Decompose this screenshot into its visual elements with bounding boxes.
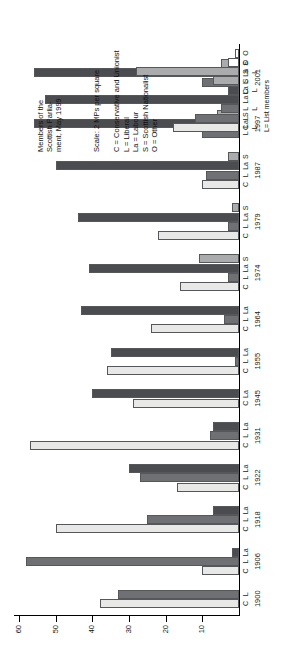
msp-bar-S-5 [213, 77, 239, 86]
y-tick [92, 616, 93, 622]
y-tick-label: 50 [52, 625, 60, 652]
bar-1979-La [78, 213, 239, 222]
msp-bar-La-4 [228, 86, 239, 95]
year-label-1964: 1964 [253, 299, 262, 339]
bar-1955-La [111, 348, 239, 357]
party-label: C [242, 399, 298, 408]
bar-1918-C [56, 525, 239, 534]
party-label: La [242, 264, 298, 273]
year-label-1918: 1918 [253, 500, 262, 540]
bar-1987-L [206, 171, 239, 180]
bar-1922-L [140, 473, 239, 482]
msp-list-marker: L [251, 123, 258, 132]
party-label: C [242, 324, 298, 333]
bar-1955-C [107, 366, 239, 375]
y-tick [166, 616, 167, 622]
y-tick-label: 40 [88, 625, 96, 652]
party-label: C [242, 366, 298, 375]
party-label: La [242, 506, 298, 515]
party-label: L [242, 473, 298, 482]
y-tick-label: 10 [198, 625, 206, 652]
party-label: S [242, 152, 298, 161]
y-tick-label: 20 [162, 625, 170, 652]
msp-party-label: L [242, 114, 249, 123]
party-label: C [242, 599, 298, 608]
party-label: La [242, 213, 298, 222]
bar-1931-C [30, 441, 239, 450]
msp-party-label: L [242, 104, 249, 113]
msp-party-label: S [242, 67, 249, 76]
year-label-1922: 1922 [253, 458, 262, 498]
bar-1964-L [224, 315, 239, 324]
party-label: C [242, 483, 298, 492]
msp-list-marker: L [251, 67, 258, 76]
party-label: C [242, 231, 298, 240]
msp-party-label: S [242, 77, 249, 86]
rotated-figure-wrapper: 102030405060 CL1900CLLa1906CLLa1918CLLa1… [0, 0, 298, 652]
bar-1964-La [81, 306, 239, 315]
msp-party-label: La [242, 95, 249, 104]
party-label: C [242, 282, 298, 291]
msp-list-marker: L [251, 104, 258, 113]
year-label-1955: 1955 [253, 341, 262, 381]
x-axis-baseline [239, 44, 240, 616]
year-label-1906: 1906 [253, 542, 262, 582]
party-label: L [242, 515, 298, 524]
year-label-1987: 1987 [253, 146, 262, 195]
year-label-1945: 1945 [253, 383, 262, 414]
bar-1974-L [228, 273, 239, 282]
scale-note: Scale: 2 MPs per square [92, 70, 101, 152]
y-axis-line [14, 615, 240, 616]
msp-list-marker: L [251, 86, 258, 95]
bar-1974-C [180, 282, 239, 291]
party-label: La [242, 390, 298, 399]
msp-bar-L-2 [221, 104, 239, 113]
msp-bar-O-7 [228, 58, 239, 67]
party-label: S [242, 255, 298, 264]
bar-1906-L [26, 557, 239, 566]
party-label: L [242, 222, 298, 231]
bar-1979-S [232, 203, 239, 212]
bar-1945-C [133, 399, 239, 408]
year-label-1931: 1931 [253, 416, 262, 456]
bar-1964-C [151, 324, 239, 333]
y-tick [19, 616, 20, 622]
party-label: La [242, 548, 298, 557]
party-label: L [242, 171, 298, 180]
bar-1931-La [213, 422, 239, 431]
msp-party-label: C [242, 123, 249, 132]
party-label: C [242, 566, 298, 575]
msp-bar-O-8 [235, 49, 239, 58]
party-label: L [242, 315, 298, 324]
bar-1900-L [118, 590, 239, 599]
y-tick [129, 616, 130, 622]
party-label: L [242, 557, 298, 566]
party-label: L [242, 431, 298, 440]
y-tick-label: 60 [15, 625, 23, 652]
bar-chart-plot: 102030405060 CL1900CLLa1906CLLa1918CLLa1… [0, 0, 298, 652]
bar-1922-La [129, 464, 239, 473]
bar-1974-La [89, 264, 239, 273]
party-label: La [242, 464, 298, 473]
y-tick [56, 616, 57, 622]
bar-1979-L [228, 222, 239, 231]
msp-bar-L-1 [195, 114, 239, 123]
party-label: C [242, 180, 298, 189]
bar-1922-C [177, 483, 239, 492]
year-label-1974: 1974 [253, 248, 262, 297]
party-label: C [242, 441, 298, 450]
party-label: La [242, 161, 298, 170]
party-label: L [242, 273, 298, 282]
msp-bar-C-0 [173, 123, 239, 132]
bar-1974-S [199, 255, 239, 264]
party-label: S [242, 203, 298, 212]
party-label: C [242, 525, 298, 534]
figure-canvas: 102030405060 CL1900CLLa1906CLLa1918CLLa1… [0, 0, 298, 652]
bar-1955-L [235, 357, 239, 366]
party-label: L [242, 590, 298, 599]
party-label: La [242, 422, 298, 431]
bar-1987-La [56, 161, 239, 170]
msp-party-label: O [242, 58, 249, 67]
bar-1906-La [232, 548, 239, 557]
party-label: La [242, 306, 298, 315]
